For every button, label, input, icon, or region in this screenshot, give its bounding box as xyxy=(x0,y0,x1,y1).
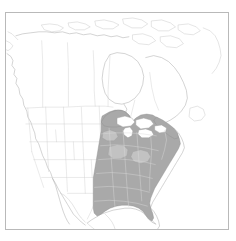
map-canvas xyxy=(6,13,228,229)
distribution-map-figure xyxy=(0,0,236,241)
species-range-shading xyxy=(93,110,180,221)
map-frame xyxy=(5,12,229,230)
